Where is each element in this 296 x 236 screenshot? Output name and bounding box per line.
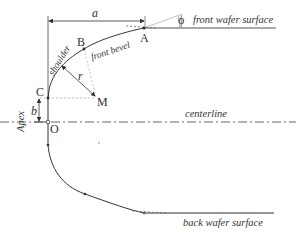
label-point-c: C [36, 85, 44, 99]
label-centerline: centerline [185, 108, 227, 119]
label-back-wafer-surface: back wafer surface [183, 217, 263, 228]
lower-dot [47, 144, 50, 147]
label-b: b [31, 104, 37, 118]
label-a: a [92, 6, 98, 20]
point-c-dot [47, 97, 50, 100]
label-point-a: A [140, 31, 149, 45]
label-r: r [78, 69, 83, 83]
label-point-m: M [97, 95, 108, 109]
front-bevel-tangent [126, 26, 156, 28]
point-a-dot [142, 26, 145, 29]
label-apex: Apex [15, 111, 26, 133]
label-point-b: B [77, 35, 85, 49]
label-phi: ϕ [178, 13, 184, 27]
back-bevel-dot [84, 193, 87, 196]
label-front-wafer-surface: front wafer surface [193, 14, 273, 25]
upper-edge-profile [48, 28, 144, 122]
phi-tangent-line [144, 14, 182, 28]
label-point-o: O [50, 122, 59, 136]
center-dot [98, 142, 99, 143]
wafer-edge-diagram: a A B C M O r b ϕ front wafer surface ba… [0, 0, 296, 236]
lower-edge-profile [48, 122, 274, 213]
back-point-dot [143, 212, 146, 215]
